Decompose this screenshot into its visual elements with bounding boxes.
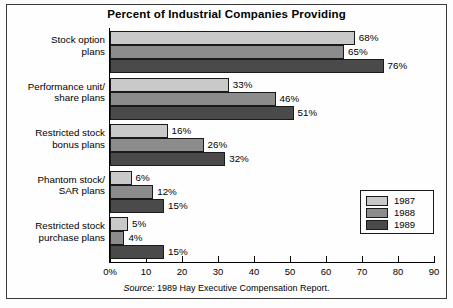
category-label-line: bonus plans [1,139,105,151]
chart-legend: 198719881989 [360,190,434,234]
category-label-3: Phantom stock/SAR plans [1,174,105,197]
x-tick-label-30: 30 [203,266,233,277]
x-tick-80 [398,256,399,263]
x-tick-label-40: 40 [239,266,269,277]
bar-1989-1 [110,106,294,120]
x-tick-label-60: 60 [311,266,341,277]
x-tick-label-80: 80 [383,266,413,277]
x-tick-label-70: 70 [347,266,377,277]
bar-1989-4 [110,245,164,259]
x-tick-label-0: 0% [95,266,125,277]
x-tick-label-90: 90 [419,266,449,277]
chart-figure: Percent of Industrial Companies Providin… [0,0,453,308]
category-label-line: Restricted stock [1,220,105,232]
category-label-line: Phantom stock/ [1,174,105,186]
x-tick-90 [434,256,435,263]
category-axis-labels: Stock optionplansPerformance unit/share … [0,0,105,308]
category-label-4: Restricted stockpurchase plans [1,220,105,243]
category-label-1: Performance unit/share plans [1,81,105,104]
x-tick-label-10: 10 [131,266,161,277]
bar-value-1987-1: 33% [233,78,253,92]
x-tick-40 [254,256,255,263]
x-axis-line [109,262,435,263]
bar-value-1989-4: 15% [168,245,188,259]
bar-value-1988-0: 65% [348,45,368,59]
bar-value-1989-2: 32% [229,152,249,166]
bar-1987-2 [110,124,168,138]
bar-value-1987-3: 6% [136,171,150,185]
category-label-line: SAR plans [1,185,105,197]
x-tick-50 [290,256,291,263]
category-label-line: purchase plans [1,232,105,244]
category-label-0: Stock optionplans [1,34,105,57]
legend-swatch-1988 [366,208,388,218]
bar-value-1987-4: 5% [132,217,146,231]
bar-value-1987-2: 16% [172,124,192,138]
bar-1988-0 [110,45,344,59]
bar-1989-2 [110,152,225,166]
bar-1988-4 [110,231,124,245]
bar-1987-3 [110,171,132,185]
x-tick-60 [326,256,327,263]
source-text: 1989 Hay Executive Compensation Report. [157,283,330,293]
category-label-line: Performance unit/ [1,81,105,93]
bar-value-1988-1: 46% [280,92,300,106]
bar-1988-1 [110,92,276,106]
bar-value-1988-3: 12% [157,185,177,199]
bar-value-1989-1: 51% [298,106,318,120]
x-tick-30 [218,256,219,263]
legend-label-1989: 1989 [394,219,415,230]
category-label-2: Restricted stockbonus plans [1,127,105,150]
x-tick-70 [362,256,363,263]
bar-1987-0 [110,31,355,45]
bar-1988-3 [110,185,153,199]
source-prefix: Source: [123,283,154,293]
x-tick-label-50: 50 [275,266,305,277]
bar-1989-3 [110,199,164,213]
bar-value-1987-0: 68% [359,31,379,45]
category-label-line: plans [1,46,105,58]
category-label-line: Stock option [1,34,105,46]
source-note: Source: 1989 Hay Executive Compensation … [0,283,453,293]
bar-1987-1 [110,78,229,92]
legend-swatch-1989 [366,220,388,230]
bar-value-1989-0: 76% [388,59,408,73]
bar-value-1988-4: 4% [128,231,142,245]
category-label-line: share plans [1,92,105,104]
legend-label-1987: 1987 [394,195,415,206]
bar-1989-0 [110,59,384,73]
legend-label-1988: 1988 [394,207,415,218]
category-label-line: Restricted stock [1,127,105,139]
legend-swatch-1987 [366,196,388,206]
x-tick-label-20: 20 [167,266,197,277]
bar-1988-2 [110,138,204,152]
bar-value-1989-3: 15% [168,199,188,213]
bar-value-1988-2: 26% [208,138,228,152]
bar-1987-4 [110,217,128,231]
